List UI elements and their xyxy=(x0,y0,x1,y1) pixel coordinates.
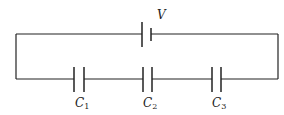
circuit-diagram xyxy=(0,0,284,115)
capacitor-c1-icon xyxy=(74,67,84,92)
capacitor-c3-icon xyxy=(212,67,221,92)
battery-icon xyxy=(142,22,151,47)
source-label: V xyxy=(157,9,166,21)
capacitor-c1-label: C1 xyxy=(75,97,89,111)
capacitor-c3-label: C3 xyxy=(212,97,226,111)
capacitor-c2-label: C2 xyxy=(143,97,157,111)
capacitor-c2-icon xyxy=(143,67,152,92)
